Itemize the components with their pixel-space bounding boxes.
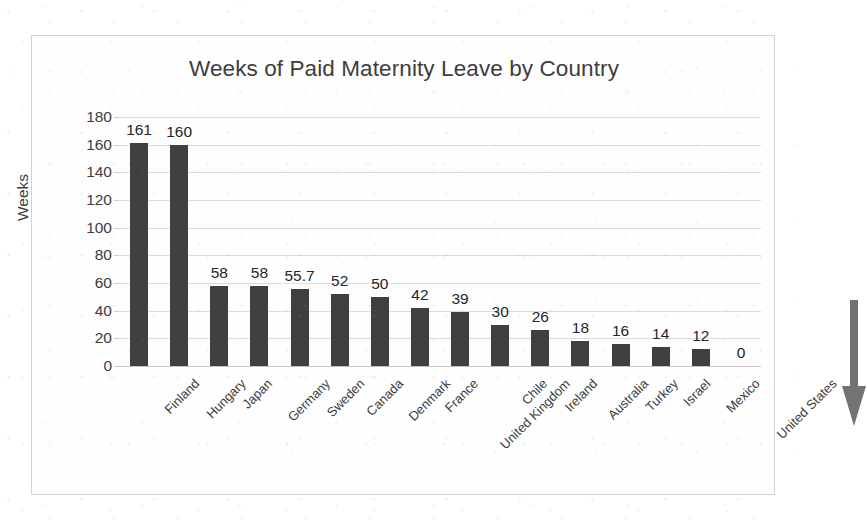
bar bbox=[692, 349, 710, 366]
y-axis-tick-label: 60 bbox=[72, 274, 112, 292]
x-axis-category-labels: FinlandHungaryJapanGermanySwedenCanadaDe… bbox=[119, 370, 761, 490]
y-axis-tick bbox=[114, 228, 119, 229]
gridline bbox=[119, 255, 761, 256]
y-axis-tick-label: 180 bbox=[72, 108, 112, 126]
bar-value-label: 26 bbox=[532, 308, 549, 326]
bar-value-label: 14 bbox=[652, 325, 669, 343]
x-axis-category-label: Canada bbox=[363, 376, 406, 419]
chart-title: Weeks of Paid Maternity Leave by Country bbox=[32, 56, 776, 82]
bar-value-label: 50 bbox=[371, 275, 388, 293]
y-axis-tick bbox=[114, 311, 119, 312]
bar-value-label: 16 bbox=[612, 322, 629, 340]
x-axis-category-label: Australia bbox=[605, 376, 651, 422]
y-axis-tick-label: 160 bbox=[72, 136, 112, 154]
x-axis-category-label: Mexico bbox=[723, 376, 763, 416]
bar-value-label: 58 bbox=[251, 264, 268, 282]
bar bbox=[451, 312, 469, 366]
bar bbox=[371, 297, 389, 366]
bar-value-label: 161 bbox=[126, 121, 152, 139]
bar bbox=[652, 347, 670, 366]
bar bbox=[411, 308, 429, 366]
bar-value-label: 30 bbox=[492, 303, 509, 321]
gridline bbox=[119, 117, 761, 118]
gridline bbox=[119, 145, 761, 146]
gridline bbox=[119, 283, 761, 284]
bar bbox=[612, 344, 630, 366]
y-axis-tick-label: 40 bbox=[72, 302, 112, 320]
y-axis-tick bbox=[114, 283, 119, 284]
gridline bbox=[119, 366, 761, 367]
bar-value-label: 39 bbox=[451, 290, 468, 308]
bar bbox=[491, 325, 509, 367]
bar bbox=[170, 145, 188, 366]
y-axis-tick bbox=[114, 117, 119, 118]
y-axis-tick bbox=[114, 145, 119, 146]
bar bbox=[331, 294, 349, 366]
bar-value-label: 55.7 bbox=[284, 267, 314, 285]
bar-value-label: 160 bbox=[166, 123, 192, 141]
y-axis-tick-label: 120 bbox=[72, 191, 112, 209]
bar-value-label: 52 bbox=[331, 272, 348, 290]
bar bbox=[210, 286, 228, 366]
gridline bbox=[119, 228, 761, 229]
bar-value-label: 0 bbox=[737, 344, 746, 362]
y-axis-tick-label: 20 bbox=[72, 329, 112, 347]
chart-frame: Weeks of Paid Maternity Leave by Country… bbox=[31, 35, 775, 495]
y-axis-tick-labels: 020406080100120140160180 bbox=[64, 117, 112, 366]
bar-value-label: 42 bbox=[411, 286, 428, 304]
y-axis-tick-label: 0 bbox=[72, 357, 112, 375]
y-axis-tick bbox=[114, 366, 119, 367]
x-axis-category-label: Japan bbox=[240, 376, 276, 412]
bar-value-label: 18 bbox=[572, 319, 589, 337]
bar bbox=[571, 341, 589, 366]
y-axis-tick bbox=[114, 172, 119, 173]
y-axis-title: Weeks bbox=[14, 174, 32, 221]
bar bbox=[291, 289, 309, 366]
plot-area: 161160585855.7525042393026181614120 bbox=[119, 117, 761, 366]
y-axis-tick bbox=[114, 338, 119, 339]
y-axis-tick bbox=[114, 255, 119, 256]
bar bbox=[250, 286, 268, 366]
x-axis-category-label: Germany bbox=[285, 376, 333, 424]
bar-value-label: 58 bbox=[211, 264, 228, 282]
down-arrow-icon bbox=[841, 300, 867, 426]
x-axis-category-label: Finland bbox=[162, 376, 203, 417]
gridline bbox=[119, 172, 761, 173]
x-axis-category-label: Israel bbox=[680, 376, 713, 409]
bar-value-label: 12 bbox=[692, 327, 709, 345]
gridline bbox=[119, 200, 761, 201]
y-axis-tick-label: 80 bbox=[72, 246, 112, 264]
y-axis-tick-label: 100 bbox=[72, 219, 112, 237]
bar bbox=[130, 143, 148, 366]
y-axis-tick-label: 140 bbox=[72, 163, 112, 181]
x-axis-category-label: United States bbox=[774, 376, 840, 442]
bar bbox=[531, 330, 549, 366]
y-axis-tick bbox=[114, 200, 119, 201]
